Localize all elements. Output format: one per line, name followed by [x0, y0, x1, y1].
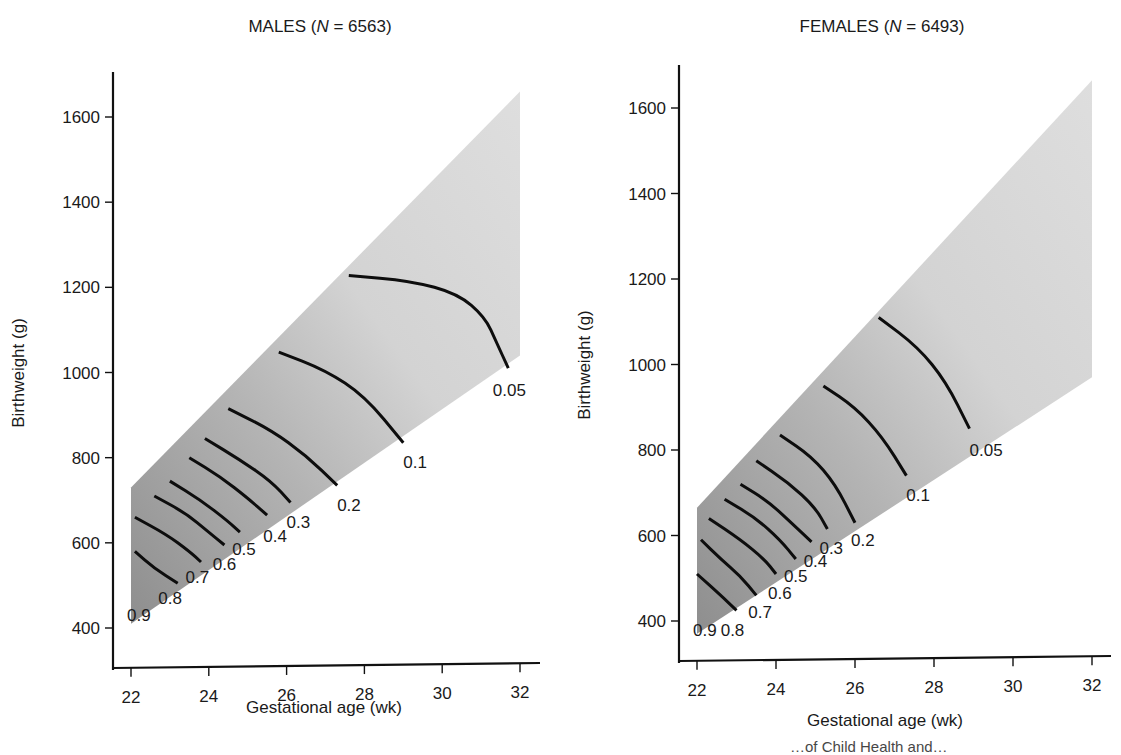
- contour-label-0.8: 0.8: [721, 621, 745, 640]
- contour-label-0.2: 0.2: [851, 531, 875, 550]
- y-tick-label: 600: [638, 527, 666, 546]
- x-tick-label: 24: [767, 680, 786, 699]
- x-axis-line: [113, 663, 540, 668]
- shaded-region: [131, 92, 520, 624]
- y-axis-title: Birthweight (g): [9, 318, 28, 428]
- x-tick-label: 28: [925, 678, 944, 697]
- panel-title: MALES (N = 6563): [248, 17, 391, 36]
- contour-label-0.7: 0.7: [185, 568, 209, 587]
- x-tick-label: 26: [846, 679, 865, 698]
- contour-label-0.6: 0.6: [768, 584, 792, 603]
- y-tick-label: 1600: [62, 108, 100, 127]
- y-tick-label: 800: [638, 441, 666, 460]
- contour-label-0.3: 0.3: [287, 513, 311, 532]
- y-axis-title: Birthweight (g): [575, 310, 594, 420]
- y-tick-label: 1200: [62, 278, 100, 297]
- contour-label-0.2: 0.2: [337, 496, 361, 515]
- y-tick-label: 400: [72, 619, 100, 638]
- y-tick-label: 1000: [628, 356, 666, 375]
- males-panel: 40060080010001200140016002224262830320.0…: [9, 17, 540, 717]
- panel-title: FEMALES (N = 6493): [800, 17, 965, 36]
- contour-label-0.8: 0.8: [158, 589, 182, 608]
- contour-label-0.4: 0.4: [263, 527, 287, 546]
- y-tick-label: 800: [72, 449, 100, 468]
- contour-label-0.05: 0.05: [493, 381, 526, 400]
- x-tick-label: 24: [199, 687, 218, 706]
- x-tick-label: 32: [511, 683, 530, 702]
- y-tick-label: 1400: [628, 185, 666, 204]
- y-tick-label: 1400: [62, 193, 100, 212]
- contour-label-0.9: 0.9: [127, 606, 151, 625]
- y-tick-label: 1000: [62, 364, 100, 383]
- x-tick-label: 22: [122, 688, 141, 707]
- contour-label-0.1: 0.1: [906, 486, 930, 505]
- females-panel: 40060080010001200140016002224262830320.0…: [575, 17, 1111, 730]
- caption-fragment: …of Child Health and…: [790, 738, 948, 755]
- contour-label-0.6: 0.6: [213, 555, 237, 574]
- x-tick-label: 32: [1083, 676, 1102, 695]
- contour-label-0.05: 0.05: [970, 441, 1003, 460]
- x-tick-label: 22: [688, 681, 707, 700]
- contour-label-0.9: 0.9: [693, 621, 717, 640]
- y-tick-label: 1200: [628, 270, 666, 289]
- x-tick-label: 30: [1004, 677, 1023, 696]
- x-axis-title: Gestational age (wk): [246, 698, 402, 717]
- y-tick-label: 400: [638, 612, 666, 631]
- x-axis-line: [679, 656, 1111, 661]
- x-tick-label: 30: [433, 684, 452, 703]
- y-tick-label: 1600: [628, 99, 666, 118]
- contour-label-0.1: 0.1: [403, 453, 427, 472]
- contour-label-0.7: 0.7: [748, 603, 772, 622]
- x-axis-title: Gestational age (wk): [807, 711, 963, 730]
- y-tick-label: 600: [72, 534, 100, 553]
